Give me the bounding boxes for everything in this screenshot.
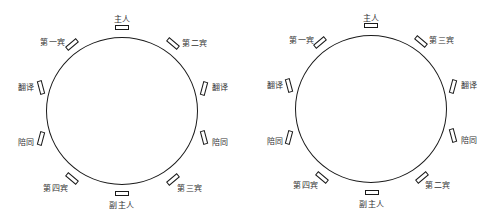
seat-label: 翻译 xyxy=(461,79,478,90)
seat-marker xyxy=(365,190,379,195)
seat-label: 陪同 xyxy=(267,135,284,146)
seat-marker xyxy=(414,35,428,48)
seat-label: 第二宾 xyxy=(425,179,451,190)
seat-marker xyxy=(285,130,293,145)
seat-label: 翻译 xyxy=(267,79,284,90)
seat-label: 副主人 xyxy=(359,198,385,209)
seat-marker xyxy=(364,23,378,28)
seat-label: 第三宾 xyxy=(429,34,455,45)
seat-label: 第四宾 xyxy=(293,179,319,190)
seat-label: 陪同 xyxy=(461,134,478,145)
seating-diagram-right: 主人第一宾第三宾翻译翻译陪同陪同第四宾第二宾副主人 xyxy=(0,0,245,219)
seat-label: 主人 xyxy=(363,12,380,23)
seat-marker xyxy=(449,79,457,94)
seat-marker xyxy=(285,78,293,93)
seat-marker xyxy=(449,128,457,143)
round-table xyxy=(295,35,447,183)
seat-label: 第一宾 xyxy=(289,34,315,45)
